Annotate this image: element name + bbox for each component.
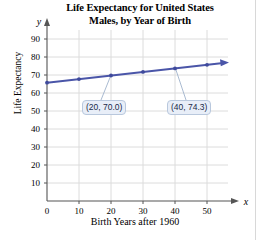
x-tick-20: 20 [107,206,117,216]
y-tick-50: 50 [31,106,41,116]
data-point-20 [109,74,113,78]
y-tick-10: 10 [31,178,41,188]
x-tick-0: 0 [45,206,50,216]
y-tick-40: 40 [31,124,41,134]
x-tick-50: 50 [203,206,213,216]
point-label-20: (20, 70.0) [82,100,126,115]
y-axis-label: Life Expectancy [13,23,23,143]
y-tick-90: 90 [31,34,41,44]
data-point-0 [45,81,49,85]
data-point-50 [205,63,209,67]
y-tick-30: 30 [31,142,41,152]
x-tick-40: 40 [171,206,181,216]
y-tick-60: 60 [31,88,41,98]
y-tick-70: 70 [31,70,41,80]
x-tick-labels: 0 10 20 30 40 50 [45,206,212,216]
x-axis-symbol: x [243,196,249,207]
chart-figure: Life Expectancy for United States Males,… [0,0,256,240]
data-point-30 [141,70,145,74]
y-tick-20: 20 [31,160,41,170]
y-axis-symbol: y [36,16,42,27]
grid-lines [47,30,228,201]
y-tick-labels: 10 20 30 40 50 60 70 80 90 [31,34,41,188]
y-tick-80: 80 [31,52,41,62]
data-point-40 [173,67,177,71]
point-label-40: (40, 74.3) [167,100,211,115]
x-tick-30: 30 [139,206,149,216]
data-series-line [47,59,229,82]
y-axis [44,18,50,201]
plot-area: 10 20 30 40 50 60 70 80 90 0 10 20 30 40… [0,0,256,240]
x-tick-10: 10 [75,206,85,216]
x-axis-label: Birth Years after 1960 [40,216,230,227]
data-point-10 [77,77,81,81]
